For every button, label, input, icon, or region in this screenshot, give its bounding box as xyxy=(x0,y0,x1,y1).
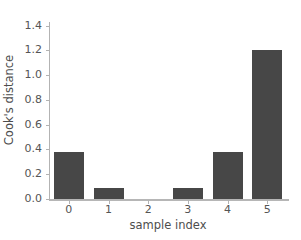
y-tick-mark xyxy=(46,199,50,200)
bar xyxy=(94,188,124,199)
bar xyxy=(173,188,203,199)
y-tick-label: 1.0 xyxy=(0,69,49,81)
bar xyxy=(213,152,243,199)
plot-area xyxy=(49,22,287,199)
x-tick-label: 5 xyxy=(247,203,287,216)
y-tick-label: 1.4 xyxy=(0,20,49,32)
y-tick-label: 0.0 xyxy=(0,193,49,205)
x-axis-label: sample index xyxy=(49,218,287,232)
bar xyxy=(54,152,84,199)
x-tick-label: 3 xyxy=(168,203,208,216)
y-tick-label: 0.8 xyxy=(0,94,49,106)
y-tick-label: 0.6 xyxy=(0,119,49,131)
x-tick-label: 0 xyxy=(49,203,89,216)
y-tick-label: 1.2 xyxy=(0,44,49,56)
x-axis-spine xyxy=(49,199,289,201)
y-tick-label: 0.4 xyxy=(0,143,49,155)
x-tick-label: 1 xyxy=(89,203,129,216)
y-tick-label: 0.2 xyxy=(0,168,49,180)
x-tick-label: 4 xyxy=(208,203,248,216)
bar xyxy=(252,50,282,199)
x-tick-label: 2 xyxy=(128,203,168,216)
cooks-distance-bar-chart: Cook's distance 0.00.20.40.60.81.01.21.4… xyxy=(0,0,301,240)
